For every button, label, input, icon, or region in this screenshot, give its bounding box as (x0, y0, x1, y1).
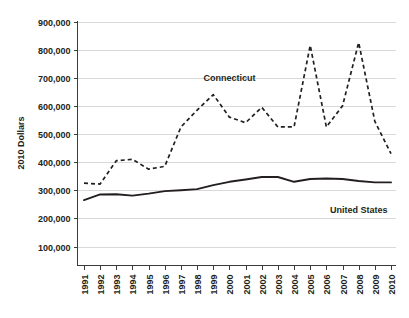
series-label-united-states: United States (330, 205, 388, 215)
x-tick-label: 1996 (161, 275, 171, 295)
chart-container: 100,000200,000300,000400,000500,000600,0… (0, 0, 409, 318)
x-tick-label: 2009 (371, 275, 381, 295)
y-tick-label: 700,000 (38, 74, 71, 84)
y-tick-label: 600,000 (38, 102, 71, 112)
y-axis-tick-labels: 100,000200,000300,000400,000500,000600,0… (38, 18, 71, 253)
y-tick-label: 100,000 (38, 243, 71, 253)
y-tick-label: 800,000 (38, 46, 71, 56)
x-tick-label: 2003 (274, 275, 284, 295)
x-tick-label: 2000 (225, 275, 235, 295)
x-tick-label: 2004 (290, 275, 300, 295)
x-tick-label: 1991 (80, 275, 90, 295)
series-label-connecticut: Connecticut (203, 73, 255, 83)
x-tick-label: 2006 (322, 275, 332, 295)
y-axis-title: 2010 Dollars (16, 116, 26, 169)
y-tick-label: 500,000 (38, 130, 71, 140)
x-tick-label: 1993 (112, 275, 122, 295)
x-tick-label: 2005 (306, 275, 316, 295)
x-tick-label: 2010 (387, 275, 397, 295)
x-tick-label: 1997 (177, 275, 187, 295)
x-tick-label: 1992 (96, 275, 106, 295)
x-tick-label: 2001 (242, 275, 252, 295)
y-tick-label: 900,000 (38, 18, 71, 28)
x-tick-label: 2008 (355, 275, 365, 295)
x-tick-label: 1995 (145, 275, 155, 295)
x-tick-label: 1994 (128, 275, 138, 295)
x-tick-label: 2007 (339, 275, 349, 295)
x-tick-label: 1999 (209, 275, 219, 295)
y-tick-label: 300,000 (38, 186, 71, 196)
x-tick-label: 1998 (193, 275, 203, 295)
line-chart: 100,000200,000300,000400,000500,000600,0… (0, 0, 409, 318)
y-tick-label: 400,000 (38, 158, 71, 168)
x-tick-label: 2002 (258, 275, 268, 295)
y-tick-label: 200,000 (38, 214, 71, 224)
